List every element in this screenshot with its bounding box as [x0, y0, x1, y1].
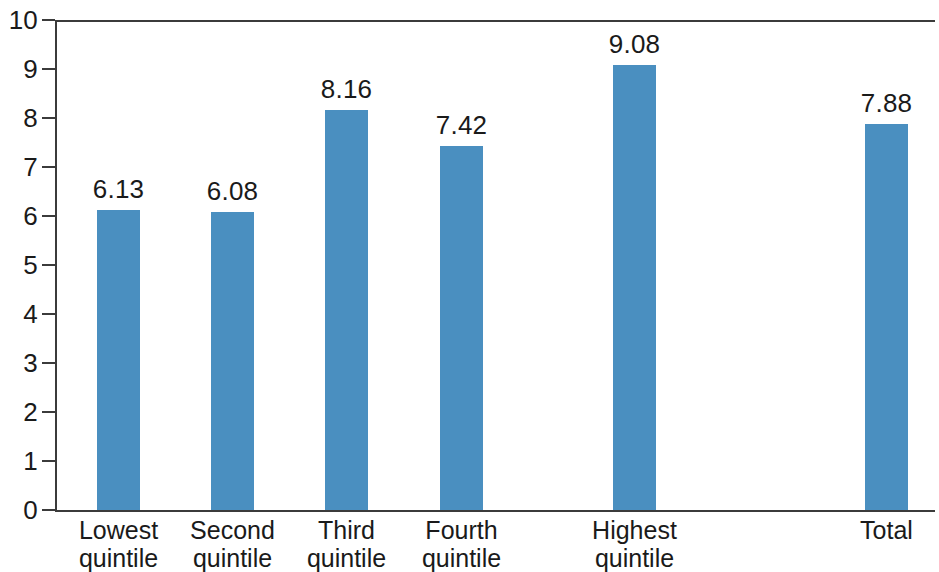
bar — [211, 212, 254, 510]
category-label-line1: Second — [190, 516, 275, 544]
category-label-line2: quintile — [560, 544, 710, 572]
bar — [440, 146, 483, 510]
category-label-line1: Highest — [592, 516, 677, 544]
x-axis-category-label: Fourthquintile — [387, 516, 537, 572]
x-axis-category-label: Total — [812, 516, 939, 544]
bar — [865, 124, 908, 510]
bar-value-label: 7.88 — [832, 90, 939, 116]
bar — [325, 110, 368, 510]
bar-value-label: 8.16 — [292, 76, 402, 102]
bar — [613, 65, 656, 510]
bar-value-label: 6.08 — [178, 178, 288, 204]
x-axis-category-label: Highestquintile — [560, 516, 710, 572]
bar-value-label: 6.13 — [64, 176, 174, 202]
category-label-line2: quintile — [387, 544, 537, 572]
bar-value-label: 9.08 — [580, 31, 690, 57]
category-label-line1: Fourth — [425, 516, 497, 544]
category-label-line1: Lowest — [79, 516, 158, 544]
bar — [97, 210, 140, 510]
bar-chart: 109876543210 6.13Lowestquintile6.08Secon… — [0, 0, 939, 572]
bar-value-label: 7.42 — [407, 112, 517, 138]
category-label-line1: Third — [318, 516, 375, 544]
plot-area: 6.13Lowestquintile6.08Secondquintile8.16… — [0, 0, 939, 572]
category-label-line1: Total — [860, 516, 913, 544]
